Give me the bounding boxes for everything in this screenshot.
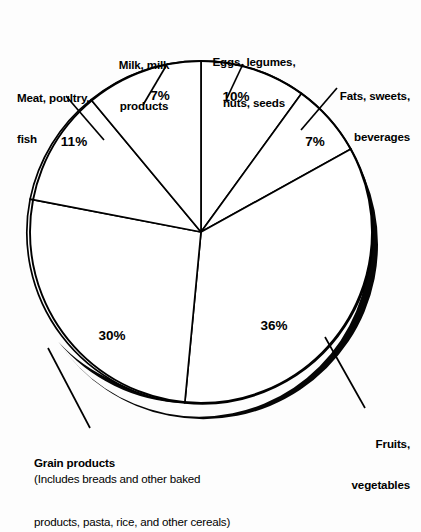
pie-value-fruits: 36%: [260, 318, 287, 333]
pie-label-milk-line2: products: [92, 99, 196, 113]
pie-label-meat: Meat, poultry, fish: [17, 64, 89, 173]
pie-label-grain-note-line1: (Includes breads and other baked: [34, 472, 230, 486]
pie-label-grain-note: (Includes breads and other baked product…: [34, 444, 230, 532]
pie-label-fruits: Fruits, vegetables: [296, 410, 410, 519]
pie-label-fats: Fats, sweets, beverages: [292, 62, 410, 171]
pie-value-grain: 30%: [98, 328, 125, 343]
pie-label-milk-line1: Milk, milk: [92, 58, 196, 72]
pie-label-meat-line2: fish: [17, 132, 89, 146]
pie-label-meat-line1: Meat, poultry,: [17, 91, 89, 105]
pie-label-fruits-line2: vegetables: [296, 478, 410, 492]
pie-label-fats-line2: beverages: [292, 130, 410, 144]
pie-label-fats-line1: Fats, sweets,: [292, 89, 410, 103]
pie-label-fruits-line1: Fruits,: [296, 437, 410, 451]
pie-slice-grain[interactable]: [27, 199, 201, 403]
pie-label-milk: Milk, milk products: [92, 31, 196, 140]
pie-label-grain-note-line2: products, pasta, rice, and other cereals…: [34, 515, 230, 529]
leader-line-fruits: [325, 337, 365, 408]
